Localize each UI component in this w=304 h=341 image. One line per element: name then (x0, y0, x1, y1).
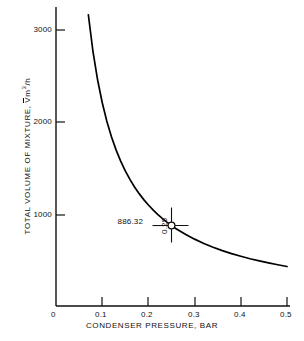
y-axis-ticks (56, 30, 65, 215)
x-tick-label-0_2: 0.2 (141, 311, 153, 319)
y-axis-units-m: m (23, 89, 32, 96)
x-axis-ticks (102, 297, 287, 306)
y-axis-units-exponent: 3 (21, 85, 27, 89)
y-axis-title: TOTAL VOLUME OF MIXTURE, Vm3/h (24, 36, 32, 276)
y-axis-symbol-vbar: V (24, 97, 32, 103)
annotation-x-label: 0.25 (161, 217, 169, 233)
y-axis-title-text: TOTAL VOLUME OF MIXTURE, (23, 105, 32, 234)
chart-plot-area (0, 0, 304, 341)
annotation-point-marker (168, 222, 175, 229)
x-tick-label-0_5: 0.5 (280, 311, 292, 319)
x-tick-label-0: 0 (51, 311, 56, 319)
x-tick-label-0_1: 0.1 (95, 311, 107, 319)
y-axis-units-per-hour: /h (23, 78, 32, 86)
x-tick-label-0_4: 0.4 (234, 311, 246, 319)
data-curve (88, 15, 287, 267)
x-axis-title: CONDENSER PRESSURE, BAR (0, 322, 304, 330)
chart-figure: 1000 2000 3000 0 0.1 0.2 0.3 0.4 0.5 886… (0, 0, 304, 341)
y-tick-label-3000: 3000 (24, 26, 52, 34)
x-tick-label-0_3: 0.3 (188, 311, 200, 319)
annotation-value-label: 886.32 (118, 218, 144, 226)
